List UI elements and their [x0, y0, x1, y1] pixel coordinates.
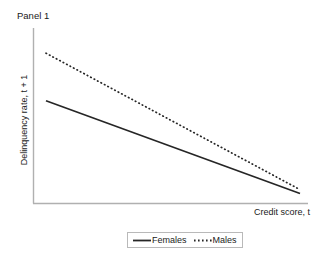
legend-item-females: Females: [133, 235, 187, 245]
legend-label-males: Males: [213, 235, 237, 245]
dotted-line-swatch: [194, 236, 212, 245]
chart-legend: Females Males: [127, 232, 243, 248]
legend-item-males: Males: [194, 235, 237, 245]
legend-label-females: Females: [152, 235, 187, 245]
chart-figure: Panel 1 Delinquency rate, t + 1 Credit s…: [0, 0, 329, 256]
series-line-males: [46, 53, 300, 189]
plot-area: [0, 0, 329, 256]
series-line-females: [46, 101, 300, 194]
solid-line-swatch: [133, 236, 151, 245]
